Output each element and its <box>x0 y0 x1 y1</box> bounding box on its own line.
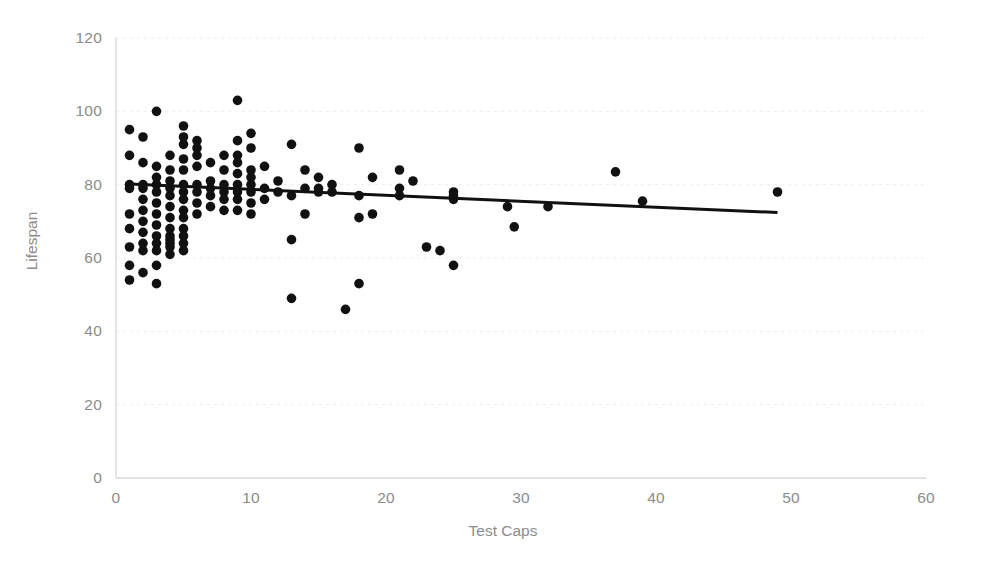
data-point <box>125 261 135 271</box>
data-point <box>219 165 229 175</box>
data-point <box>138 158 148 168</box>
data-point <box>300 165 310 175</box>
data-point <box>233 169 243 179</box>
data-point <box>287 140 297 150</box>
data-point <box>233 206 243 216</box>
data-point <box>219 195 229 205</box>
x-tick-label-30: 30 <box>512 489 530 507</box>
data-point <box>354 213 364 223</box>
data-point <box>192 187 202 197</box>
data-point <box>314 173 324 183</box>
data-point <box>354 143 364 153</box>
data-point <box>152 198 162 208</box>
data-point <box>246 143 256 153</box>
data-point <box>152 107 162 117</box>
data-point <box>192 151 202 161</box>
data-point <box>341 305 351 315</box>
data-point <box>246 209 256 219</box>
data-point <box>260 195 270 205</box>
y-tick-label-120: 120 <box>40 29 102 47</box>
data-point <box>125 224 135 234</box>
data-point <box>179 121 189 131</box>
data-point <box>219 206 229 216</box>
data-point <box>165 191 175 201</box>
data-point <box>125 125 135 135</box>
data-point <box>395 165 405 175</box>
data-point <box>192 198 202 208</box>
y-tick-label-0: 0 <box>40 469 102 487</box>
data-point <box>233 96 243 106</box>
data-point <box>165 165 175 175</box>
data-point <box>179 140 189 150</box>
data-point <box>138 206 148 216</box>
data-point <box>449 261 459 271</box>
data-point <box>179 154 189 164</box>
data-point <box>233 136 243 146</box>
x-tick-label-40: 40 <box>647 489 665 507</box>
data-point <box>773 187 783 197</box>
data-point <box>138 195 148 205</box>
data-point <box>152 187 162 197</box>
data-point-group <box>125 96 783 315</box>
data-point <box>638 196 648 206</box>
data-point <box>179 165 189 175</box>
data-point <box>165 202 175 212</box>
scatter-chart: 020406080100120 0102030405060 Test Caps … <box>0 0 1006 576</box>
data-point <box>273 176 283 186</box>
data-point <box>138 217 148 227</box>
data-point <box>138 132 148 142</box>
x-axis-title: Test Caps <box>0 522 1006 540</box>
data-point <box>125 242 135 252</box>
data-point <box>179 246 189 256</box>
data-point <box>165 250 175 260</box>
data-point <box>165 151 175 161</box>
data-point <box>206 191 216 201</box>
data-point <box>246 129 256 139</box>
data-point <box>233 195 243 205</box>
data-point <box>611 167 621 177</box>
data-point <box>509 222 519 232</box>
data-point <box>246 198 256 208</box>
data-point <box>192 162 202 172</box>
y-tick-label-40: 40 <box>40 322 102 340</box>
data-point <box>138 268 148 278</box>
data-point <box>287 294 297 304</box>
data-point <box>152 162 162 172</box>
data-point <box>152 209 162 219</box>
data-point <box>138 246 148 256</box>
data-point <box>165 213 175 223</box>
data-point <box>138 228 148 238</box>
plot-area <box>0 0 1006 576</box>
data-point <box>233 158 243 168</box>
x-tick-label-10: 10 <box>242 489 260 507</box>
data-point <box>152 279 162 289</box>
x-tick-label-20: 20 <box>377 489 395 507</box>
data-point <box>179 213 189 223</box>
y-tick-label-20: 20 <box>40 396 102 414</box>
data-point <box>125 275 135 285</box>
data-point <box>206 158 216 168</box>
data-point <box>408 176 418 186</box>
data-point <box>152 261 162 271</box>
gridlines <box>116 38 926 405</box>
y-tick-label-80: 80 <box>40 176 102 194</box>
x-tick-label-50: 50 <box>782 489 800 507</box>
data-point <box>152 246 162 256</box>
data-point <box>300 209 310 219</box>
data-point <box>152 220 162 230</box>
y-tick-label-60: 60 <box>40 249 102 267</box>
data-point <box>422 242 432 252</box>
data-point <box>368 209 378 219</box>
data-point <box>125 209 135 219</box>
data-point <box>354 279 364 289</box>
y-tick-label-100: 100 <box>40 102 102 120</box>
x-tick-label-0: 0 <box>112 489 121 507</box>
data-point <box>287 235 297 245</box>
data-point <box>503 202 513 212</box>
data-point <box>179 195 189 205</box>
data-point <box>435 246 445 256</box>
data-point <box>219 151 229 161</box>
data-point <box>192 209 202 219</box>
data-point <box>260 162 270 172</box>
data-point <box>125 151 135 161</box>
